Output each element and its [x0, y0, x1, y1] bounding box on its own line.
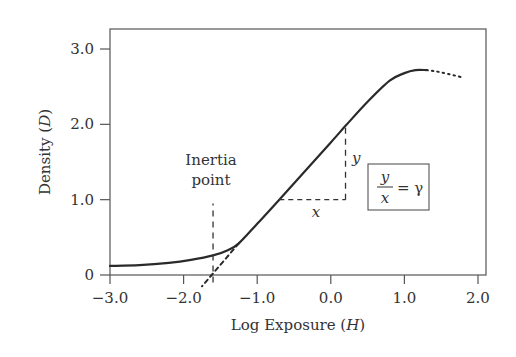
y-tick-label: 0 — [84, 266, 94, 284]
x-axis-title: Log Exposure (H) — [231, 316, 365, 334]
formula-equals-gamma: = γ — [397, 179, 423, 197]
plot-frame — [110, 29, 486, 275]
delta-x-label: x — [312, 203, 321, 221]
y-tick-label: 3.0 — [70, 40, 94, 58]
y-tick-label: 1.0 — [70, 191, 94, 209]
series-dashed-line — [202, 243, 239, 286]
gamma-formula-box: y x = γ — [368, 164, 429, 210]
series-dotted-line — [426, 70, 463, 78]
x-tick-label: −3.0 — [92, 289, 128, 307]
x-tick-label: −2.0 — [165, 289, 201, 307]
inertia-label-line2: point — [191, 171, 230, 189]
x-tick-label: 2.0 — [466, 289, 490, 307]
y-axis-title: Density (D) — [36, 109, 54, 195]
x-tick-label: −1.0 — [239, 289, 275, 307]
inertia-label-line1: Inertia — [185, 151, 236, 169]
formula-numerator: y — [380, 168, 390, 186]
x-tick-label: 0.0 — [319, 289, 343, 307]
formula-denominator: x — [381, 189, 390, 207]
chart: −3.0−2.0−1.00.01.02.001.02.03.0 Log Expo… — [0, 0, 516, 357]
x-tick-label: 1.0 — [392, 289, 416, 307]
delta-y-label: y — [351, 149, 361, 167]
y-tick-label: 2.0 — [70, 115, 94, 133]
